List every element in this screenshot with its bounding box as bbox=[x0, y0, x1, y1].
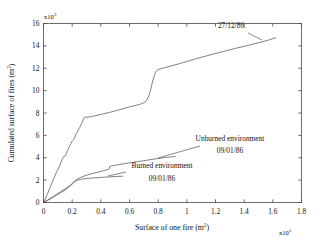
x-tick-label: 0.8 bbox=[154, 207, 164, 216]
x-tick-label: 0 bbox=[42, 207, 46, 216]
annotation-leader-line-2 bbox=[248, 33, 262, 40]
x-axis-ticks: 00.20.40.60.811.21.41.61.8 bbox=[42, 24, 307, 216]
y-tick-label: 10 bbox=[32, 86, 40, 95]
chart-figure: 00.20.40.60.811.21.41.61.8 0246810121416… bbox=[0, 0, 322, 247]
y-tick-label: 8 bbox=[36, 109, 40, 118]
data-curve-2 bbox=[44, 176, 122, 202]
y-tick-label: 14 bbox=[32, 41, 40, 50]
y-tick-label: 16 bbox=[32, 19, 40, 28]
x-tick-label: 0.4 bbox=[96, 207, 106, 216]
x-tick-label: 1 bbox=[185, 207, 189, 216]
y-axis-exponent: x103 bbox=[44, 12, 57, 20]
burned-environment-date: 09/01/86 bbox=[149, 174, 176, 183]
y-tick-label: 2 bbox=[36, 176, 40, 185]
y-tick-label: 12 bbox=[32, 64, 40, 73]
x-axis-exponent: x105 bbox=[279, 228, 292, 236]
curve-27-12-86-label: 27/12/86. bbox=[218, 21, 246, 30]
annotation-leader-line-1 bbox=[108, 172, 126, 176]
y-axis-title: Cumulated surface of fires (m2) bbox=[6, 63, 16, 162]
burned-environment-label: Burned environment bbox=[132, 161, 194, 170]
y-tick-label: 4 bbox=[36, 153, 40, 162]
y-tick-label: 0 bbox=[36, 198, 40, 207]
y-tick-label: 6 bbox=[36, 131, 40, 140]
x-tick-label: 1.4 bbox=[240, 207, 250, 216]
x-tick-label: 1.2 bbox=[211, 207, 221, 216]
x-tick-label: 1.6 bbox=[268, 207, 278, 216]
unburned-environment-label: Unburned environment bbox=[196, 134, 266, 143]
chart-canvas: 00.20.40.60.811.21.41.61.8 0246810121416… bbox=[0, 0, 322, 247]
annotation-leader-line-0 bbox=[158, 146, 200, 158]
x-tick-label: 0.2 bbox=[68, 207, 78, 216]
x-tick-label: 0.6 bbox=[125, 207, 135, 216]
x-axis-title: Surface of one fire (m2) bbox=[135, 222, 209, 232]
unburned-environment-date: 09/01/86 bbox=[217, 146, 244, 155]
x-tick-label: 1.8 bbox=[297, 207, 307, 216]
